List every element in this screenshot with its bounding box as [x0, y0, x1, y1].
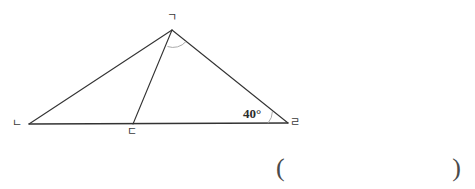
- segment-side-nieun-giyeok: [29, 30, 172, 124]
- vertex-label-nieun: ㄴ: [12, 118, 22, 129]
- angle-arc-at-rieul: [268, 111, 273, 123]
- segment-base-nieun-rieul: [29, 123, 288, 124]
- vertex-label-rieul: ㄹ: [290, 117, 300, 128]
- vertex-label-giyeok: ㄱ: [167, 12, 177, 23]
- vertex-label-digeut: ㄷ: [127, 126, 137, 137]
- open-paren: (: [276, 153, 285, 183]
- segment-cevian-giyeok-digeut: [133, 30, 172, 124]
- answer-blank[interactable]: ( ): [276, 152, 461, 184]
- close-paren: ): [452, 153, 461, 183]
- segment-side-giyeok-rieul: [172, 30, 288, 123]
- angle-measure-label: 40°: [243, 106, 261, 122]
- geometry-figure: ㄱ ㄴ ㄷ ㄹ 40° ( ): [0, 0, 475, 189]
- angle-arc-at-giyeok: [168, 42, 187, 48]
